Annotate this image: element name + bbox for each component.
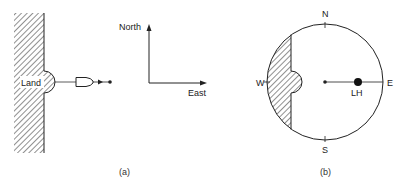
figure-canvas: Land North East (a) [0,0,405,185]
lighthouse-dot-icon [354,78,362,86]
east-label: East [188,88,207,98]
label-lh: LH [351,88,363,98]
caption-a: (a) [119,167,130,177]
east-arrow-icon [200,81,207,86]
signal-arrow-icon [93,80,112,85]
compass-axes: North East [119,22,207,98]
label-s: S [322,145,328,155]
north-label: North [119,22,141,32]
label-n: N [322,9,329,19]
label-w: W [256,78,265,88]
panel-a: Land North East (a) [14,13,207,177]
horn-icon [76,78,93,87]
land-region [260,20,302,145]
land-strip: Land [14,13,55,153]
label-e: E [387,78,393,88]
panel-b: N S E W LH (b) [256,9,393,177]
land-label: Land [21,78,41,88]
north-arrow-icon [147,24,152,31]
caption-b: (b) [320,167,331,177]
